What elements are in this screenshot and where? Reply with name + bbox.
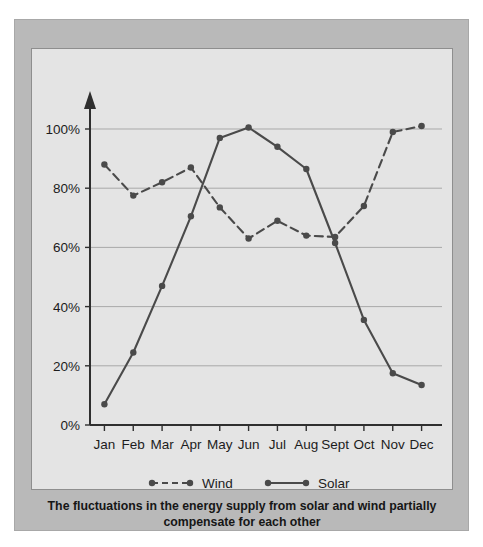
data-point-wind-may [217,204,223,210]
data-point-wind-apr [188,164,194,170]
legend-label-wind: Wind [202,476,233,489]
data-point-wind-aug [303,232,309,238]
data-point-solar-aug [303,166,309,172]
chart-legend: WindSolar [149,476,350,489]
figure-caption: The fluctuations in the energy supply fr… [33,498,451,530]
x-axis-tick-label: Nov [381,437,405,452]
data-point-solar-dec [418,382,424,388]
data-point-solar-may [217,135,223,141]
data-point-wind-oct [361,203,367,209]
figure-frame: 0%20%40%60%80%100% JanFebMarAprMayJunJul… [14,19,469,531]
x-axis-tick-label: May [207,437,233,452]
series-line-wind [104,126,421,239]
data-point-wind-jul [274,218,280,224]
legend-label-solar: Solar [318,476,350,489]
data-point-solar-sept [332,240,338,246]
caption-line-1: The fluctuations in the energy supply fr… [48,499,437,513]
caption-line-2: compensate for each other [163,515,320,529]
x-axis-tick-labels: JanFebMarAprMayJunJulAugSeptOctNovDec [94,437,434,452]
legend-marker-start-solar [265,480,271,486]
y-axis-arrow-icon [84,91,96,109]
x-axis-tick-label: Apr [180,437,202,452]
data-point-solar-oct [361,317,367,323]
y-axis-tick-label: 80% [53,181,80,196]
y-axis-tick-label: 0% [60,418,80,433]
data-point-solar-jun [245,124,251,130]
y-axis-tick-label: 40% [53,300,80,315]
line-chart: 0%20%40%60%80%100% JanFebMarAprMayJunJul… [32,49,452,489]
data-point-solar-jul [274,144,280,150]
data-point-wind-jun [245,235,251,241]
y-axis-tick-label: 20% [53,359,80,374]
chart-panel: 0%20%40%60%80%100% JanFebMarAprMayJunJul… [31,48,453,490]
x-axis-tick-label: Feb [122,437,145,452]
x-axis-tick-label: Mar [150,437,174,452]
data-point-solar-mar [159,283,165,289]
data-point-wind-feb [130,192,136,198]
data-point-wind-jan [101,161,107,167]
y-axis-tick-labels: 0%20%40%60%80%100% [45,122,80,433]
x-axis-tick-label: Jan [94,437,116,452]
x-axis-tick-label: Sept [321,437,349,452]
legend-marker-start-wind [149,480,155,486]
data-point-solar-feb [130,349,136,355]
legend-marker-end-wind [187,480,193,486]
data-point-solar-apr [188,213,194,219]
data-point-solar-jan [101,401,107,407]
x-axis-tick-label: Dec [410,437,434,452]
x-axis-tick-label: Oct [353,437,374,452]
data-point-wind-nov [390,129,396,135]
data-point-solar-nov [390,370,396,376]
legend-marker-end-solar [303,480,309,486]
data-series-layer [101,123,425,408]
x-axis-tick-label: Jul [269,437,286,452]
series-line-solar [104,128,421,405]
x-axis-tick-label: Jun [238,437,260,452]
x-axis-tick-label: Aug [294,437,318,452]
y-axis-tick-label: 60% [53,240,80,255]
data-point-wind-mar [159,179,165,185]
y-axis-tick-label: 100% [45,122,80,137]
data-point-wind-dec [418,123,424,129]
